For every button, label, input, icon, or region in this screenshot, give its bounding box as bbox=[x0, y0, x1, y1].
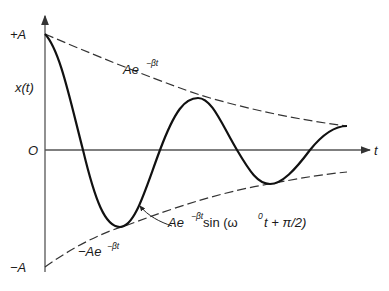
svg-text:−βt: −βt bbox=[146, 58, 159, 68]
svg-text:t + π/2): t + π/2) bbox=[264, 215, 306, 230]
lower-envelope-label: −Ae −βt bbox=[78, 241, 120, 259]
upper-envelope-label: Ae −βt bbox=[122, 58, 159, 77]
y-axis-label: x(t) bbox=[14, 80, 34, 95]
bottom-label: −A bbox=[10, 260, 26, 275]
svg-text:Ae: Ae bbox=[167, 215, 184, 230]
damped-oscillation-diagram: +A x(t) O t −A Ae −βt −Ae −βt Ae −βt sin… bbox=[0, 0, 389, 291]
upper-envelope-curve bbox=[45, 34, 347, 126]
top-label: +A bbox=[10, 27, 26, 42]
oscillation-label: Ae −βt sin (ω 0 t + π/2) bbox=[167, 211, 306, 230]
svg-text:Ae: Ae bbox=[122, 62, 139, 77]
svg-text:−Ae: −Ae bbox=[78, 244, 102, 259]
svg-text:−βt: −βt bbox=[107, 241, 120, 251]
x-axis-label: t bbox=[374, 143, 379, 158]
origin-label: O bbox=[28, 143, 38, 158]
damped-oscillation-curve bbox=[45, 34, 347, 227]
svg-text:0: 0 bbox=[258, 211, 263, 221]
svg-text:−βt: −βt bbox=[191, 211, 204, 221]
svg-text:sin (ω: sin (ω bbox=[203, 215, 238, 230]
